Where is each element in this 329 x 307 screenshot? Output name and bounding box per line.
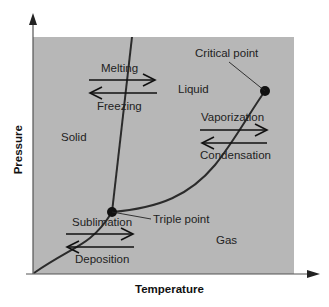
region-liquid-label: Liquid — [178, 84, 209, 96]
x-axis-label: Temperature — [135, 284, 204, 296]
phase-diagram-graphic — [0, 0, 329, 307]
y-axis-label: Pressure — [13, 125, 25, 174]
y-axis-arrow-icon — [29, 13, 37, 25]
deposition-label: Deposition — [75, 254, 129, 266]
x-axis-arrow-icon — [307, 270, 320, 278]
vaporization-label: Vaporization — [201, 112, 264, 124]
melting-label: Melting — [101, 63, 138, 75]
condensation-label: Condensation — [200, 150, 271, 162]
region-solid-label: Solid — [61, 132, 87, 144]
freezing-label: Freezing — [97, 101, 142, 113]
sublimation-label: Sublimation — [72, 217, 132, 229]
critical-point-label: Critical point — [195, 48, 258, 60]
triple-point-label: Triple point — [153, 214, 209, 226]
region-gas-label: Gas — [216, 235, 237, 247]
